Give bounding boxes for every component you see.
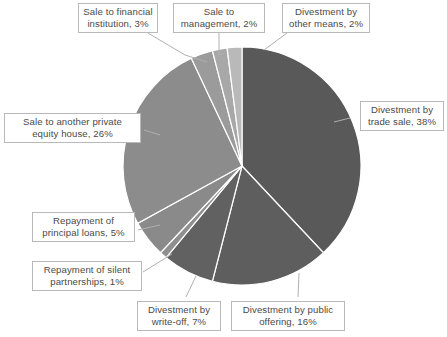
leader-line-silent-partnerships <box>143 254 172 272</box>
leader-line-other-means <box>264 33 287 50</box>
pie-slices-group <box>123 47 361 285</box>
label-divestment-by-public-offering: Divestment by public offering, 16% <box>231 301 345 331</box>
label-repayment-of-principal-loans: Repayment of principal loans, 5% <box>32 212 135 242</box>
leader-line-write-off <box>186 276 196 297</box>
label-repayment-of-silent-partnerships: Repayment of silent partnerships, 1% <box>32 261 142 291</box>
pie-chart-page: Sale to financial institution, 3% Sale t… <box>0 0 447 337</box>
label-sale-to-management: Sale to management, 2% <box>173 3 265 33</box>
label-sale-to-another-private-equity-house: Sale to another private equity house, 26… <box>4 113 141 143</box>
label-divestment-by-write-off: Divestment by write-off, 7% <box>137 301 221 331</box>
label-divestment-by-other-means: Divestment by other means, 2% <box>282 3 370 33</box>
label-sale-to-financial-institution: Sale to financial institution, 3% <box>78 3 158 33</box>
label-divestment-by-trade-sale: Divestment by trade sale, 38% <box>360 101 444 131</box>
leader-line-public-offering <box>298 273 299 297</box>
